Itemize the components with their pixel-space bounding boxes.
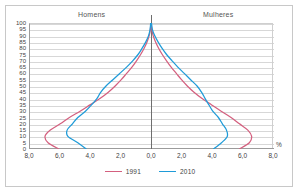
curve-1991-homens	[45, 23, 151, 149]
x-tick-8: 8,0	[261, 152, 285, 159]
x-tick-1: 6,0	[48, 152, 72, 159]
legend-item-1991[interactable]: 1991	[105, 168, 141, 175]
curve-1991-mulheres	[151, 23, 252, 149]
x-tick-2: 4,0	[78, 152, 102, 159]
x-tick-5: 2,0	[170, 152, 194, 159]
legend-swatch-2010	[159, 171, 176, 172]
x-tick-0: 8,0	[17, 152, 41, 159]
y-tick-20: 20	[19, 121, 26, 127]
pyramid-curves	[29, 23, 273, 149]
curve-2010-mulheres	[151, 23, 227, 149]
legend-label-2010: 2010	[180, 168, 195, 175]
x-tick-6: 4,0	[200, 152, 224, 159]
gender-label-female: Mulheres	[203, 11, 233, 18]
y-tick-80: 80	[19, 45, 26, 51]
y-tick-15: 15	[19, 127, 26, 133]
population-pyramid-figure: Homens Mulheres 100959085807570656055504…	[0, 0, 300, 192]
y-tick-75: 75	[19, 52, 26, 58]
y-tick-35: 35	[19, 102, 26, 108]
y-tick-55: 55	[19, 77, 26, 83]
y-tick-50: 50	[19, 83, 26, 89]
chart-legend: 19912010	[0, 168, 300, 175]
y-tick-40: 40	[19, 96, 26, 102]
legend-label-1991: 1991	[126, 168, 141, 175]
y-tick-25: 25	[19, 115, 26, 121]
y-tick-85: 85	[19, 39, 26, 45]
x-tick-4: 0,0	[139, 152, 163, 159]
y-axis-tick-labels: 1009590858075706560555045403530252015105…	[0, 0, 26, 192]
y-tick-90: 90	[19, 33, 26, 39]
y-tick-5: 5	[23, 140, 26, 146]
legend-item-2010[interactable]: 2010	[159, 168, 195, 175]
y-tick-30: 30	[19, 108, 26, 114]
y-tick-45: 45	[19, 89, 26, 95]
x-tick-7: 6,0	[231, 152, 255, 159]
gender-label-male: Homens	[78, 11, 105, 18]
y-tick-100: 100	[16, 20, 26, 26]
y-tick-95: 95	[19, 26, 26, 32]
y-tick-60: 60	[19, 70, 26, 76]
percent-axis-label: %	[276, 141, 282, 148]
y-tick-10: 10	[19, 133, 26, 139]
curve-2010-homens	[67, 23, 151, 149]
legend-swatch-1991	[105, 171, 122, 172]
x-tick-3: 2,0	[109, 152, 133, 159]
y-tick-65: 65	[19, 64, 26, 70]
y-tick-70: 70	[19, 58, 26, 64]
